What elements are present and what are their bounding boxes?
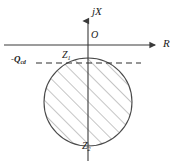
z1-subscript: 1 <box>68 54 71 61</box>
z1-base: Z <box>62 49 68 60</box>
qcd-base: -Q <box>11 54 21 64</box>
reactance-axis-label: jX <box>92 6 102 17</box>
z2-label: Z2 <box>82 141 91 151</box>
z2-subscript: 2 <box>88 145 91 152</box>
qcd-subscript: cd <box>21 59 26 65</box>
impedance-plane-figure: jX R O Z1 Z2 -Qcd <box>0 0 176 167</box>
hatched-region <box>40 54 138 150</box>
origin-label: O <box>91 30 98 40</box>
qcd-label: -Qcd <box>11 55 26 64</box>
z2-base: Z <box>82 140 88 151</box>
resistance-axis-label: R <box>163 38 170 49</box>
z1-label: Z1 <box>62 50 71 60</box>
